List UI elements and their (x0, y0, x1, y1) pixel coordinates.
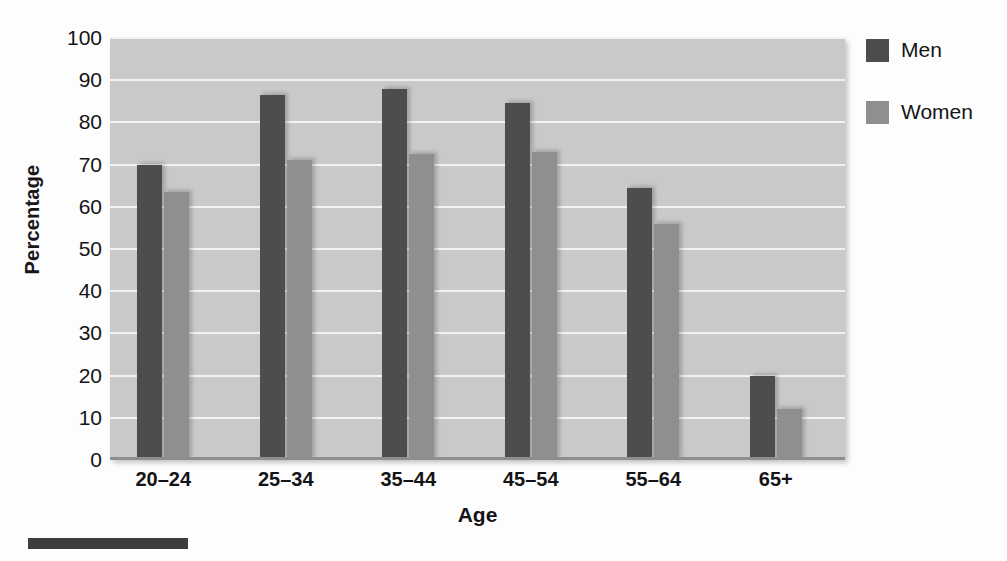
y-axis-tick-label: 60 (40, 195, 102, 219)
y-axis-tick-label: 20 (40, 364, 102, 388)
plot-area (110, 38, 845, 460)
y-axis-tick-label: 80 (40, 110, 102, 134)
bar-women-45-54 (532, 152, 557, 460)
bar-women-55-64 (654, 224, 679, 460)
x-axis-tick-label: 35–44 (338, 468, 478, 491)
bar-women-25-34 (287, 160, 312, 460)
bar-group (750, 38, 802, 460)
y-axis-tick-label: 10 (40, 406, 102, 430)
bar-group (627, 38, 679, 460)
bar-group (505, 38, 557, 460)
bar-men-25-34 (260, 95, 285, 460)
bar-women-65+ (777, 409, 802, 460)
bar-men-55-64 (627, 188, 652, 460)
bar-women-20-24 (164, 192, 189, 460)
y-axis-tick-label: 40 (40, 279, 102, 303)
bar-group (260, 38, 312, 460)
x-axis-tick-label: 55–64 (583, 468, 723, 491)
bar-men-35-44 (382, 89, 407, 460)
y-axis-tick-label: 30 (40, 321, 102, 345)
bar-men-65+ (750, 376, 775, 460)
bar-men-20-24 (137, 165, 162, 460)
x-axis-tick-labels: 20–2425–3435–4445–5455–6465+ (110, 468, 845, 498)
x-axis-tick-label: 25–34 (216, 468, 356, 491)
x-axis-tick-label: 20–24 (93, 468, 233, 491)
x-axis-baseline (110, 457, 845, 460)
caption-rule (28, 538, 188, 549)
y-axis-tick-label: 90 (40, 68, 102, 92)
bar-men-45-54 (505, 103, 530, 460)
y-axis-tick-label: 70 (40, 153, 102, 177)
bar-chart-figure: Percentage 0102030405060708090100 20–242… (0, 0, 1007, 561)
chart-legend: MenWomen (866, 38, 996, 162)
x-axis-tick-label: 65+ (706, 468, 846, 491)
bar-group (137, 38, 189, 460)
y-axis-tick-label: 100 (40, 26, 102, 50)
legend-entry-men: Men (866, 38, 996, 62)
legend-label: Men (901, 38, 942, 62)
y-axis-tick-label: 50 (40, 237, 102, 261)
legend-swatch-men (866, 39, 889, 62)
x-axis-tick-label: 45–54 (461, 468, 601, 491)
x-axis-title: Age (110, 503, 845, 527)
bar-women-35-44 (409, 154, 434, 460)
bar-group (382, 38, 434, 460)
legend-label: Women (901, 100, 973, 124)
legend-swatch-women (866, 101, 889, 124)
bars-layer (110, 38, 845, 460)
legend-entry-women: Women (866, 100, 996, 124)
y-axis-tick-labels: 0102030405060708090100 (40, 38, 102, 460)
